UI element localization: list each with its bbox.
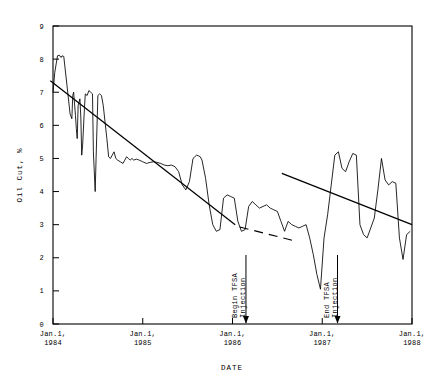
y-tick-label: 6	[40, 122, 44, 130]
y-tick-label: 0	[40, 321, 44, 329]
x-tick-label-line1: Jan.1,	[40, 330, 66, 338]
x-tick-label-line2: 1988	[403, 339, 421, 347]
annotation-begin-tfsa-injection: Begin TFSAInjection	[231, 255, 249, 324]
y-tick-label: 2	[40, 254, 44, 262]
x-tick-label-line2: 1986	[224, 339, 242, 347]
annotation-label-line1: End TFSA	[323, 281, 331, 318]
annotation-end-tfsa-injection: End TFSAInjection	[323, 255, 341, 324]
post-injection-trend	[282, 173, 412, 224]
y-axis-ticks	[53, 26, 59, 324]
annotation-label-line1: Begin TFSA	[231, 272, 239, 318]
x-tick-label: Jan.1,1985	[130, 330, 156, 347]
x-tick-label-line2: 1985	[134, 339, 152, 347]
x-tick-label: Jan.1,1986	[219, 330, 245, 347]
x-tick-label-line2: 1984	[44, 339, 62, 347]
x-axis-tick-labels: Jan.1,1984Jan.1,1985Jan.1,1986Jan.1,1987…	[40, 330, 425, 347]
annotations-group: Begin TFSAInjectionEnd TFSAInjection	[231, 255, 341, 324]
x-tick-label-line1: Jan.1,	[309, 330, 335, 338]
trend-lines-group	[50, 81, 412, 241]
x-tick-label: Jan.1,1987	[309, 330, 335, 347]
y-tick-label: 1	[40, 287, 44, 295]
data-series-line	[53, 55, 410, 289]
y-tick-label: 8	[40, 56, 44, 64]
y-axis-title: Oil Cut, %	[16, 147, 24, 202]
y-axis-tick-labels: 0123456789	[40, 23, 44, 329]
data-series-group	[53, 55, 410, 289]
y-tick-label: 3	[40, 221, 44, 229]
pre-injection-trend	[50, 81, 235, 225]
x-tick-label-line1: Jan.1,	[399, 330, 425, 338]
y-tick-label: 5	[40, 155, 44, 163]
y-tick-label: 4	[40, 188, 44, 196]
oil-cut-vs-date-chart: 0123456789 Jan.1,1984Jan.1,1985Jan.1,198…	[0, 0, 432, 391]
x-axis-title: DATE	[221, 364, 243, 372]
x-tick-label: Jan.1,1984	[40, 330, 66, 347]
x-tick-label-line2: 1987	[313, 339, 331, 347]
x-tick-label: Jan.1,1988	[399, 330, 425, 347]
x-tick-label-line1: Jan.1,	[219, 330, 245, 338]
y-tick-label: 9	[40, 23, 44, 31]
y-tick-label: 7	[40, 89, 44, 97]
x-tick-label-line1: Jan.1,	[130, 330, 156, 338]
annotation-label-line2: Injection	[239, 277, 247, 318]
chart-figure: 0123456789 Jan.1,1984Jan.1,1985Jan.1,198…	[0, 0, 432, 391]
annotation-label-line2: Injection	[331, 277, 339, 318]
